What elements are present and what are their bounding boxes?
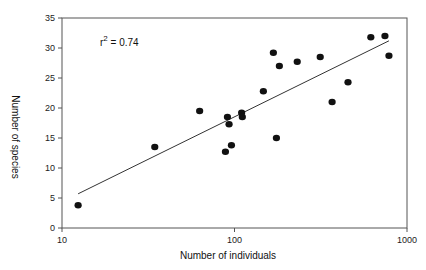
r-squared-annotation: r2 = 0.74	[100, 34, 139, 48]
x-tick-label: 10	[57, 235, 67, 245]
y-tick-label: 5	[50, 193, 55, 203]
y-tick-label: 0	[50, 223, 55, 233]
data-point	[225, 121, 232, 127]
data-point	[75, 202, 82, 208]
y-axis-ticks: 05101520253035	[45, 13, 62, 233]
plot-border	[62, 18, 407, 228]
x-axis-ticks: 101001000	[57, 228, 417, 245]
data-point	[222, 149, 229, 155]
y-tick-label: 25	[45, 73, 55, 83]
data-point	[381, 33, 388, 39]
data-point	[228, 142, 235, 148]
x-axis-title: Number of individuals	[180, 250, 276, 261]
data-point	[273, 135, 280, 141]
data-point	[317, 54, 324, 60]
x-tick-label: 100	[227, 235, 242, 245]
data-point	[276, 63, 283, 69]
y-tick-label: 10	[45, 163, 55, 173]
data-point	[329, 99, 336, 105]
data-point	[270, 50, 277, 56]
data-point	[385, 53, 392, 59]
y-axis-title: Number of species	[10, 95, 21, 178]
data-point	[151, 144, 158, 150]
y-tick-label: 20	[45, 103, 55, 113]
scatter-chart: 05101520253035 101001000 r2 = 0.74 Numbe…	[0, 0, 426, 270]
data-point	[239, 114, 246, 120]
regression-line	[78, 41, 389, 194]
data-point	[260, 88, 267, 94]
data-point	[367, 34, 374, 40]
fit-line	[78, 41, 389, 194]
data-points	[75, 33, 393, 209]
data-point	[224, 114, 231, 120]
y-tick-label: 15	[45, 133, 55, 143]
x-tick-label: 1000	[397, 235, 417, 245]
data-point	[344, 79, 351, 85]
plot-frame	[62, 18, 407, 228]
data-point	[196, 108, 203, 114]
y-tick-label: 30	[45, 43, 55, 53]
y-tick-label: 35	[45, 13, 55, 23]
data-point	[294, 59, 301, 65]
